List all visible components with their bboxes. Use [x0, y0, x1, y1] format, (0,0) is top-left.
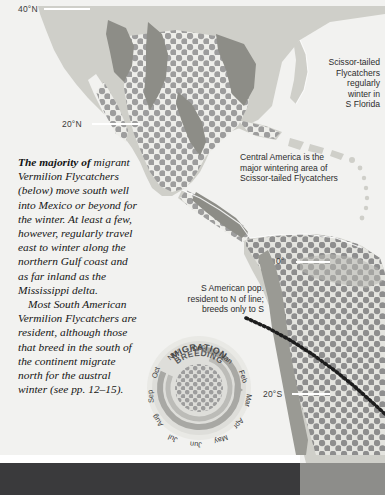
caption-paragraph-1: The majority of migrant Vermilion Flycat… [18, 155, 140, 297]
caption-text-block: The majority of migrant Vermilion Flycat… [18, 155, 140, 396]
caption-paragraph-1-rest: migrant Vermilion Flycatchers (below) mo… [18, 156, 137, 296]
callout-south-american-population: S American pop. resident to N of line; b… [158, 283, 264, 315]
caption-paragraph-2: Most South American Vermilion Flycatcher… [18, 297, 140, 396]
wheel-core-dotted [175, 364, 223, 412]
month-label-dec: Dec [191, 342, 205, 353]
page-bottom-right-band [300, 463, 385, 495]
map-figure: 40°N 20°N 0° 20°S Scissor-tailed Flycatc… [0, 0, 385, 495]
caption-lead-bold: The majority of [18, 156, 91, 168]
latitude-label-40n: 40°N [18, 4, 38, 14]
latitude-label-20s: 20°S [263, 389, 282, 399]
migration-breeding-wheel: MIGRATION BREEDING Jan Feb Mar Apr May J… [145, 326, 253, 450]
month-label-sep: Sep [146, 390, 156, 404]
latitude-label-20n: 20°N [62, 119, 82, 129]
callout-scissor-tailed-florida: Scissor-tailed Flycatchers regularly win… [308, 57, 380, 110]
month-label-jun: Jun [190, 439, 203, 449]
latitude-label-equator: 0° [276, 256, 285, 266]
florida-peninsula [290, 40, 308, 104]
callout-central-america-wintering: Central America is the major wintering a… [240, 152, 380, 184]
